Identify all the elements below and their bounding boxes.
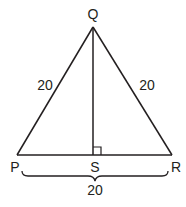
triangle-diagram: Q P S R 20 20 20	[0, 0, 186, 207]
side-pq	[17, 27, 93, 155]
vertex-label-r: R	[171, 159, 181, 175]
vertex-label-p: P	[10, 159, 19, 175]
right-angle-marker	[93, 147, 101, 155]
side-label-qr: 20	[139, 77, 155, 93]
side-qr	[93, 27, 172, 155]
side-label-pq: 20	[37, 77, 53, 93]
vertex-label-s: S	[90, 159, 99, 175]
vertex-label-q: Q	[88, 6, 99, 22]
side-label-pr: 20	[87, 182, 103, 198]
